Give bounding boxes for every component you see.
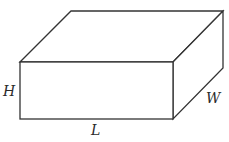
width-label: W: [206, 91, 220, 105]
box-diagram: H L W: [0, 0, 229, 142]
front-face: [20, 62, 173, 119]
height-label: H: [3, 84, 15, 98]
length-label: L: [91, 123, 100, 137]
prism-drawing: [0, 0, 229, 142]
